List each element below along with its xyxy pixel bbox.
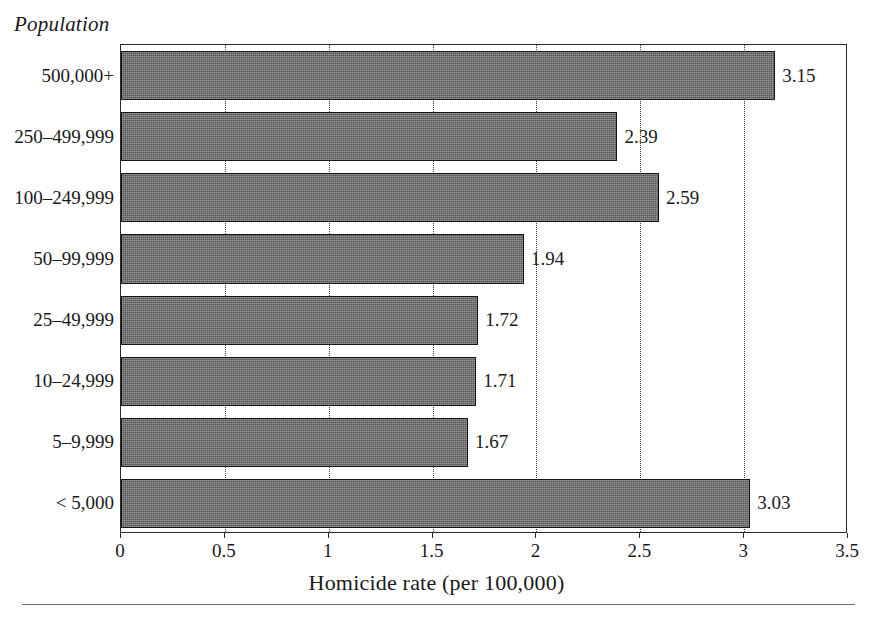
plot-area xyxy=(120,44,847,533)
x-axis-tick-mark xyxy=(224,533,225,538)
bar[interactable] xyxy=(121,296,478,345)
plot-inner xyxy=(121,45,846,532)
bar[interactable] xyxy=(121,479,750,528)
x-axis-tick-label: 1.5 xyxy=(420,541,444,560)
bar-row xyxy=(121,234,846,283)
bar[interactable] xyxy=(121,418,468,467)
x-axis-tick-label: 1 xyxy=(323,541,333,560)
bar-value-label: 2.59 xyxy=(666,187,699,206)
bottom-divider xyxy=(22,604,855,605)
y-axis-tick-label: 5–9,999 xyxy=(2,432,114,451)
y-axis-tick-label: 50–99,999 xyxy=(2,248,114,267)
bar-value-label: 3.15 xyxy=(782,65,815,84)
bar-value-label: 1.94 xyxy=(531,248,564,267)
y-axis-tick-label: 10–24,999 xyxy=(2,371,114,390)
bar-row xyxy=(121,51,846,100)
bar[interactable] xyxy=(121,51,775,100)
x-axis-tick-mark xyxy=(743,533,744,538)
x-axis-tick-label: 2.5 xyxy=(627,541,651,560)
x-axis-tick-mark xyxy=(639,533,640,538)
x-axis-tick-mark xyxy=(535,533,536,538)
bar-value-label: 2.39 xyxy=(624,126,657,145)
y-axis-tick-label: 100–249,999 xyxy=(2,187,114,206)
y-axis-tick-label: 500,000+ xyxy=(2,65,114,84)
bar-value-label: 1.72 xyxy=(485,310,518,329)
y-axis-tick-label: < 5,000 xyxy=(2,493,114,512)
x-axis-title: Homicide rate (per 100,000) xyxy=(0,570,873,596)
x-axis-tick-label: 0 xyxy=(115,541,125,560)
bar-value-label: 1.71 xyxy=(483,371,516,390)
bar[interactable] xyxy=(121,357,476,406)
x-axis-tick-mark xyxy=(432,533,433,538)
bar-row xyxy=(121,173,846,222)
y-axis-tick-label: 250–499,999 xyxy=(2,126,114,145)
x-axis-tick-mark xyxy=(847,533,848,538)
x-axis-tick-label: 0.5 xyxy=(212,541,236,560)
y-axis-tick-labels: 500,000+250–499,999100–249,99950–99,9992… xyxy=(0,0,114,627)
x-axis-tick-label: 3 xyxy=(738,541,748,560)
bar-row xyxy=(121,112,846,161)
bar[interactable] xyxy=(121,112,617,161)
chart-figure: Population 500,000+250–499,999100–249,99… xyxy=(0,0,873,627)
bar-row xyxy=(121,479,846,528)
x-axis-tick-mark xyxy=(328,533,329,538)
x-axis-tick-label: 2 xyxy=(531,541,541,560)
bar[interactable] xyxy=(121,234,524,283)
y-axis-tick-label: 25–49,999 xyxy=(2,310,114,329)
bar[interactable] xyxy=(121,173,659,222)
bar-value-label: 1.67 xyxy=(475,432,508,451)
x-axis-tick-mark xyxy=(120,533,121,538)
bar-value-label: 3.03 xyxy=(757,493,790,512)
x-axis-tick-label: 3.5 xyxy=(835,541,859,560)
bar-row xyxy=(121,296,846,345)
